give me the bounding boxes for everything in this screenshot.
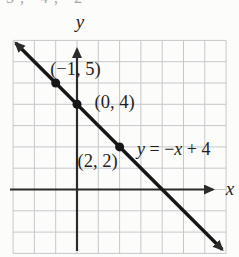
graph-figure: 5, 4, 2 (−1, 5)(0, 4)(2, 2)y = −x + 4yx: [0, 0, 239, 257]
coordinate-plane: (−1, 5)(0, 4)(2, 2)y = −x + 4yx: [0, 0, 239, 257]
point-label: (2, 2): [78, 151, 118, 172]
equation-label: y = −x + 4: [135, 139, 210, 159]
y-axis-label: y: [74, 11, 85, 32]
data-point: [51, 79, 60, 88]
data-point: [73, 100, 82, 109]
point-label: (−1, 5): [50, 59, 101, 80]
x-axis-label: x: [225, 178, 235, 199]
point-label: (0, 4): [95, 92, 135, 113]
